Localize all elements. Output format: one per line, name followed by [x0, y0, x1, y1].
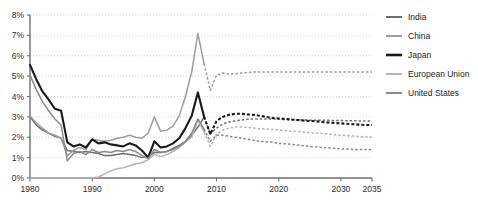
y-tick-labels: 0%1%2%3%4%5%6%7%8% [12, 10, 25, 183]
series-line-forecast [204, 64, 372, 90]
x-tick-label: 2000 [145, 184, 164, 194]
legend-item-label[interactable]: India [408, 12, 427, 22]
x-tick-label: 2010 [207, 184, 226, 194]
legend-item-label[interactable]: United States [408, 88, 459, 98]
y-tick-label: 5% [12, 71, 25, 81]
y-tick-label: 8% [12, 10, 25, 20]
y-axis [27, 15, 30, 178]
series-line-historical [30, 65, 204, 158]
legend-item-label[interactable]: European Union [408, 69, 470, 79]
x-tick-label: 2035 [363, 184, 382, 194]
y-tick-label: 7% [12, 30, 25, 40]
line-chart: 0%1%2%3%4%5%6%7%8% 198019902000201020202… [0, 0, 478, 206]
series-line-forecast [204, 129, 372, 149]
chart-legend: IndiaChinaJapanEuropean UnionUnited Stat… [386, 12, 470, 98]
chart-canvas: 0%1%2%3%4%5%6%7%8% 198019902000201020202… [0, 0, 478, 206]
gridlines [30, 15, 372, 158]
legend-item-label[interactable]: Japan [408, 50, 431, 60]
x-tick-label: 2020 [269, 184, 288, 194]
y-tick-label: 1% [12, 153, 25, 163]
x-tick-label: 2030 [331, 184, 350, 194]
series-lines [30, 33, 372, 178]
x-tick-label: 1990 [83, 184, 102, 194]
legend-item-label[interactable]: China [408, 31, 430, 41]
y-tick-label: 4% [12, 92, 25, 102]
x-tick-label: 1980 [21, 184, 40, 194]
y-tick-label: 3% [12, 112, 25, 122]
y-tick-label: 2% [12, 132, 25, 142]
series-line-historical [30, 120, 204, 178]
x-tick-labels: 1980199020002010202020302035 [21, 184, 382, 194]
y-tick-label: 0% [12, 173, 25, 183]
y-tick-label: 6% [12, 51, 25, 61]
